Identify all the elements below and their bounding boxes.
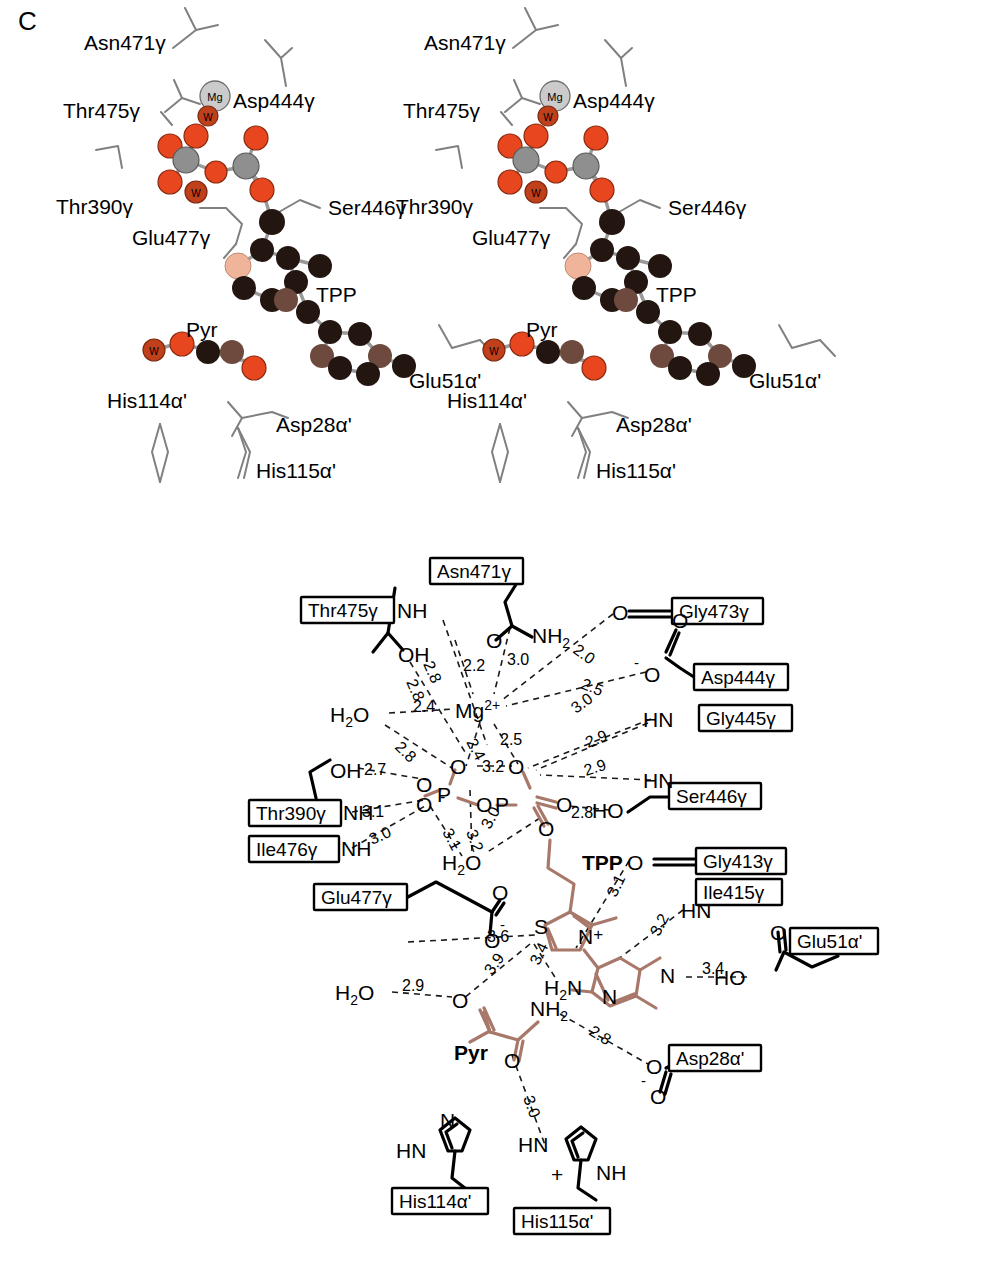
mg-sphere-label: Mg — [207, 91, 222, 103]
atom-o-asp444-2: O — [672, 609, 688, 632]
stereo-left-label-asp444: Asp444γ — [233, 89, 315, 112]
box-glu477: Glu477γ — [314, 884, 407, 910]
stereo-right-label-glu51: Glu51α' — [749, 369, 821, 392]
lig-n1: N — [660, 964, 675, 987]
box-label-asp444: Asp444γ — [701, 667, 775, 688]
dist-2.8-ser446: 2.8 — [571, 804, 593, 821]
atom-o-glu51: O — [770, 921, 786, 944]
stereo-left-label-pyr: Pyr — [186, 318, 218, 341]
atom-o-asp28-1: O — [646, 1055, 662, 1078]
dist-2.7: 2.7 — [364, 761, 386, 778]
atom-hn-gly445: HN — [643, 708, 673, 731]
lig-pyr-o2: O — [504, 1049, 520, 1072]
stereo-right-label-his114: His114α' — [447, 389, 527, 412]
dist-2.2: 2.2 — [463, 657, 485, 674]
box-gly445: Gly445γ — [699, 705, 792, 731]
box-asp28: Asp28α' — [669, 1045, 761, 1071]
lig-o-d: O — [508, 755, 524, 778]
atom-o-glu477-1: O — [492, 881, 508, 904]
box-ser446: Ser446γ — [669, 783, 761, 809]
box-his115: His115α' — [514, 1208, 610, 1234]
lig-n3: N — [602, 985, 617, 1008]
stereo-right-label-pyr: Pyr — [526, 318, 558, 341]
box-label-ser446: Ser446γ — [676, 786, 747, 807]
box-label-gly413: Gly413γ — [703, 851, 773, 872]
stereo-right-label-tpp: TPP — [656, 283, 697, 306]
stereo-right-label-ser446: Ser446γ — [668, 196, 747, 219]
box-label-thr390: Thr390γ — [256, 803, 326, 824]
charge-minus-p1: - — [440, 788, 445, 805]
stereo-right-label-asn471: Asn471γ — [424, 31, 506, 54]
box-label-asp28: Asp28α' — [676, 1048, 745, 1069]
svg-text:W: W — [531, 188, 541, 199]
stereo-right-label-asp444: Asp444γ — [573, 89, 655, 112]
stereo-left-label-ser446: Ser446γ — [328, 196, 407, 219]
dist-2.9-pyr: 2.9 — [402, 977, 424, 994]
box-label-gly445: Gly445γ — [706, 708, 776, 729]
dist-3.2-bridge: 3.2 — [482, 758, 504, 775]
box-label-asn471: Asn471γ — [437, 561, 511, 582]
box-label-his114: His114α' — [399, 1191, 471, 1212]
water-sphere-label: W — [543, 112, 553, 123]
stereo-left-label-thr475: Thr475γ — [63, 99, 141, 122]
lig-o-c: O — [416, 793, 432, 816]
lig-o-f: O — [538, 817, 554, 840]
box-label-thr475: Thr475γ — [308, 600, 378, 621]
atom-nh-thr475: NH — [397, 599, 427, 622]
atom-nh-ile476: NH — [341, 837, 371, 860]
stereo-left-label-his115: His115α' — [256, 459, 336, 482]
svg-text:W: W — [149, 346, 159, 357]
box-thr475: Thr475γ — [301, 597, 394, 623]
atom-hn-ser446: HN — [643, 769, 673, 792]
atom-nh-his115: NH — [596, 1161, 626, 1184]
mg-sphere-label: Mg — [547, 91, 562, 103]
svg-text:W: W — [191, 188, 201, 199]
box-gly413: Gly413γ — [696, 848, 786, 874]
stereo-left-label-thr390: Thr390γ — [56, 195, 134, 218]
box-label-glu477: Glu477γ — [321, 887, 392, 908]
dist-3.1-thr390: 3.1 — [362, 803, 384, 820]
box-label-his115: His115α' — [521, 1211, 593, 1232]
charge-plus-his115: + — [551, 1163, 563, 1186]
stereo-right-label-thr475: Thr475γ — [403, 99, 481, 122]
box-label-ile415: Ile415γ — [703, 882, 765, 903]
box-ile476: Ile476γ — [249, 836, 339, 862]
atom-o-asp444-1: O — [644, 663, 660, 686]
stereo-left-label-asp28: Asp28α' — [276, 413, 352, 436]
charge-minus-asp444: - — [634, 654, 639, 671]
atom-oh-thr390: OH — [330, 759, 362, 782]
dist-2.4-w: 2.4 — [413, 698, 435, 715]
panel-letter: C — [18, 6, 37, 36]
atom-hn-his114: HN — [396, 1139, 426, 1162]
stereo-left-label-asn471: Asn471γ — [84, 31, 166, 54]
lig-pyr-o1: O — [452, 989, 468, 1012]
box-label-ile476: Ile476γ — [256, 839, 318, 860]
stereo-right-label-glu477: Glu477γ — [472, 226, 551, 249]
stereo-right-label-asp28: Asp28α' — [616, 413, 692, 436]
ligand-label-pyr: Pyr — [454, 1041, 488, 1064]
box-thr390: Thr390γ — [249, 800, 341, 826]
box-asp444: Asp444γ — [694, 664, 788, 690]
lig-o-a: O — [450, 755, 466, 778]
lig-s: S — [534, 915, 548, 938]
dist-3.0-asn: 3.0 — [507, 651, 529, 668]
atom-hn-his115: HN — [518, 1133, 548, 1156]
atom-o-gly473: O — [612, 601, 628, 624]
box-his114: His114α' — [392, 1188, 488, 1214]
atom-o-asn471: O — [486, 629, 502, 652]
atom-n-his114: N — [440, 1109, 455, 1132]
stereo-right-label-his115: His115α' — [596, 459, 676, 482]
stereo-right-label-thr390: Thr390γ — [396, 195, 474, 218]
box-label-gly473: Gly473γ — [679, 601, 749, 622]
box-label-glu51: Glu51α' — [797, 931, 862, 952]
atom-ho-ser446: HO — [592, 799, 624, 822]
lig-o-e: O — [556, 793, 572, 816]
stereo-left-label-glu477: Glu477γ — [132, 226, 211, 249]
box-asn471: Asn471γ — [430, 558, 523, 584]
water-sphere-label: W — [203, 112, 213, 123]
atom-o-asp28-2: O — [650, 1085, 666, 1108]
atom-o-gly413: O — [627, 851, 643, 874]
ligand-label-tpp: TPP — [582, 851, 623, 874]
box-glu51: Glu51α' — [790, 928, 878, 954]
stereo-left-label-tpp: TPP — [316, 283, 357, 306]
